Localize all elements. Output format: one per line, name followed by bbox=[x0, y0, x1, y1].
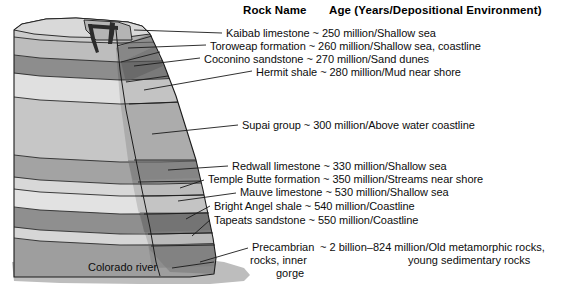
label-precambrian-name-line1: Precambrian bbox=[252, 241, 314, 253]
label-colorado-river: Colorado river bbox=[88, 261, 157, 273]
label-coconino-text: Coconino sandstone ~ 270 million/Sand du… bbox=[204, 53, 429, 65]
label-tapeats-text: Tapeats sandstone ~ 550 million/Coastlin… bbox=[214, 214, 418, 226]
label-hermit-text: Hermit shale ~ 280 million/Mud near shor… bbox=[256, 66, 461, 78]
label-tapeats: Tapeats sandstone ~ 550 million/Coastlin… bbox=[214, 214, 418, 226]
label-supai: Supai group ~ 300 million/Above water co… bbox=[242, 119, 475, 131]
label-mauve-text: Mauve limestone ~ 530 million/Shallow se… bbox=[240, 186, 449, 198]
label-redwall: Redwall limestone ~ 330 million/Shallow … bbox=[232, 160, 447, 172]
label-precambrian-name-line3: gorge bbox=[276, 267, 304, 279]
label-redwall-text: Redwall limestone ~ 330 million/Shallow … bbox=[232, 160, 447, 172]
label-hermit: Hermit shale ~ 280 million/Mud near shor… bbox=[256, 66, 461, 78]
label-supai-text: Supai group ~ 300 million/Above water co… bbox=[242, 119, 475, 131]
label-bright-angel: Bright Angel shale ~ 540 million/Coastli… bbox=[214, 200, 415, 212]
label-precambrian-age-line1: ~ 2 billion–824 million/Old metamorphic … bbox=[320, 241, 545, 253]
label-kaibab-text: Kaibab limestone ~ 250 million/Shallow s… bbox=[226, 27, 436, 39]
label-kaibab: Kaibab limestone ~ 250 million/Shallow s… bbox=[226, 27, 436, 39]
header-rock-name: Rock Name bbox=[243, 4, 307, 16]
label-toroweap-text: Toroweap formation ~ 260 million/Shallow… bbox=[210, 40, 481, 52]
label-mauve: Mauve limestone ~ 530 million/Shallow se… bbox=[240, 186, 449, 198]
label-coconino: Coconino sandstone ~ 270 million/Sand du… bbox=[204, 53, 429, 65]
header-age-environment: Age (Years/Depositional Environment) bbox=[329, 4, 542, 16]
rock-strata-figure: Rock Name Age (Years/Depositional Enviro… bbox=[0, 0, 576, 293]
label-bright-angel-text: Bright Angel shale ~ 540 million/Coastli… bbox=[214, 200, 415, 212]
label-temple-butte: Temple Butte formation ~ 350 million/Str… bbox=[208, 173, 483, 185]
label-toroweap: Toroweap formation ~ 260 million/Shallow… bbox=[210, 40, 481, 52]
label-precambrian-age-line2: young sedimentary rocks bbox=[408, 254, 530, 266]
label-precambrian-name-line2: rocks, inner bbox=[250, 254, 307, 266]
label-temple-butte-text: Temple Butte formation ~ 350 million/Str… bbox=[208, 173, 483, 185]
